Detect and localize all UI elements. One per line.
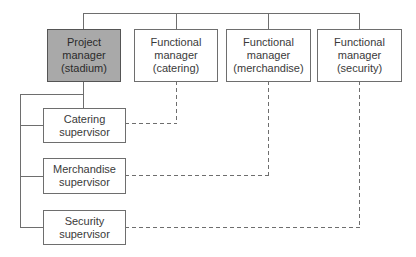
org-chart: Project manager (stadium) Functional man… bbox=[0, 0, 416, 257]
functional-manager-catering-box: Functional manager (catering) bbox=[134, 29, 218, 82]
merchandise-supervisor-label: Merchandise supervisor bbox=[53, 163, 116, 189]
functional-manager-security-label: Functional manager (security) bbox=[334, 36, 385, 75]
catering-supervisor-box: Catering supervisor bbox=[43, 108, 126, 143]
catering-supervisor-label: Catering supervisor bbox=[59, 113, 110, 139]
functional-manager-security-box: Functional manager (security) bbox=[317, 29, 402, 82]
functional-manager-merchandise-box: Functional manager (merchandise) bbox=[226, 29, 311, 82]
functional-manager-catering-label: Functional manager (catering) bbox=[151, 36, 202, 75]
merchandise-supervisor-box: Merchandise supervisor bbox=[43, 158, 126, 194]
functional-manager-merchandise-label: Functional manager (merchandise) bbox=[233, 36, 303, 75]
security-supervisor-label: Security supervisor bbox=[59, 215, 110, 241]
project-manager-label: Project manager (stadium) bbox=[61, 36, 107, 75]
project-manager-box: Project manager (stadium) bbox=[47, 29, 121, 82]
security-supervisor-box: Security supervisor bbox=[43, 210, 126, 245]
